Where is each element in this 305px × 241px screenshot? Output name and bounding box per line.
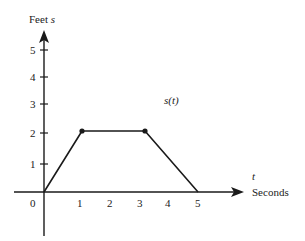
x-tick-label-4: 4 [165, 197, 171, 209]
x-tick-label-5: 5 [195, 197, 201, 209]
y-tick-label-2: 2 [30, 127, 36, 139]
curve-label: s(t) [164, 94, 179, 107]
position-curve [44, 131, 198, 192]
y-tick-label-3: 3 [30, 98, 36, 110]
data-point-marker [142, 128, 147, 133]
x-axis-var: t [252, 170, 256, 182]
data-point-marker [79, 128, 84, 133]
y-tick-label-4: 4 [30, 71, 36, 83]
origin-label: 0 [30, 197, 36, 209]
position-time-chart: 1 2 3 4 5 0 1 2 3 4 5 Feet s t Seconds s… [0, 0, 305, 241]
y-axis-title: Feet s [29, 13, 55, 25]
x-tick-label-3: 3 [137, 197, 143, 209]
y-tick-label-5: 5 [30, 44, 36, 56]
x-tick-label-2: 2 [107, 197, 113, 209]
x-axis-title: Seconds [252, 186, 289, 198]
y-tick-label-1: 1 [30, 158, 36, 170]
x-tick-label-1: 1 [77, 197, 83, 209]
